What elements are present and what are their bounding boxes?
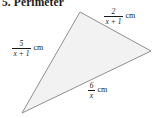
side-label-bottom: 6 x cm xyxy=(88,82,107,99)
fraction-numerator: 2 xyxy=(110,8,117,16)
unit-label: cm xyxy=(33,44,43,53)
perimeter-figure: 5. Perimeter 2 x + 1 cm 5 x + 1 cm 6 x c… xyxy=(0,0,159,118)
fraction-top-right: 2 x + 1 xyxy=(104,8,123,25)
unit-label: cm xyxy=(125,12,135,21)
fraction-denominator: x xyxy=(88,91,94,99)
fraction-numerator: 6 xyxy=(88,82,95,90)
fraction-bottom: 6 x xyxy=(88,82,95,99)
triangle-shape xyxy=(22,12,151,113)
fraction-numerator: 5 xyxy=(18,40,25,48)
fraction-left: 5 x + 1 xyxy=(12,40,31,57)
unit-label: cm xyxy=(98,86,108,95)
side-label-left: 5 x + 1 cm xyxy=(12,40,43,57)
fraction-denominator: x + 1 xyxy=(12,49,31,57)
side-label-top-right: 2 x + 1 cm xyxy=(104,8,135,25)
fraction-denominator: x + 1 xyxy=(104,17,123,25)
